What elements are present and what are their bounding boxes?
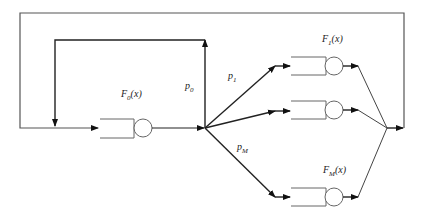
- label-f0: F0(x): [121, 88, 142, 102]
- queueing-network-diagram: [0, 0, 422, 218]
- branch-p1: [205, 66, 275, 128]
- inner-feedback-return: [55, 40, 205, 126]
- label-p0: p0: [185, 80, 194, 94]
- merge-fm: [358, 128, 387, 197]
- label-p1: p1: [228, 70, 237, 84]
- outer-feedback-loop: [20, 13, 404, 128]
- queue-f2: [291, 101, 343, 119]
- label-f1: F1(x): [322, 33, 343, 47]
- label-fm: FM(x): [323, 164, 346, 178]
- branch-pM: [205, 128, 275, 197]
- queue-fm: [291, 188, 343, 206]
- label-pM: pM: [237, 141, 248, 155]
- queue-f1: [291, 57, 343, 75]
- queue-f0: [100, 119, 152, 138]
